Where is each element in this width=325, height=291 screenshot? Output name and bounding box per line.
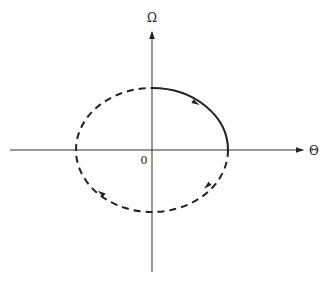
phase-diagram: Ω Θ 0: [0, 0, 325, 291]
omega-axis-label: Ω: [147, 11, 157, 25]
direction-arrow-icon: [203, 182, 212, 191]
orbit-solid-arc: [152, 88, 228, 150]
origin-label: 0: [141, 154, 148, 167]
theta-axis-label: Θ: [309, 144, 319, 158]
